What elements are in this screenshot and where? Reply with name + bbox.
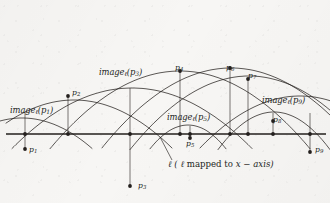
label-point-p3: p3 <box>138 182 146 190</box>
axis-caption: ℓ ( ℓ mapped to x − axis) <box>168 160 274 169</box>
axis-caption-leader <box>160 137 172 160</box>
axis-dot-p9-foot <box>308 132 312 136</box>
point-dot-p9 <box>308 150 312 154</box>
label-point-p9: p9 <box>315 146 323 154</box>
axis-dot-p7-foot <box>246 132 250 136</box>
label-image-l-p9: imageℓ(p9) <box>262 96 305 105</box>
axis-dot-p5-foot <box>188 132 192 136</box>
label-point-p8: p8 <box>273 116 281 124</box>
axis-dot-p3-foot <box>128 132 132 136</box>
label-image-l-p1: imageℓ(p1) <box>10 106 53 115</box>
label-image-l-p3: imageℓ(p3) <box>99 68 142 77</box>
parabola-image_l(p1) <box>0 118 92 148</box>
point-dot-p2 <box>66 94 70 98</box>
figure-canvas: imageℓ(p1) imageℓ(p3) imageℓ(p5) imageℓ(… <box>0 0 330 203</box>
label-point-p6: p6 <box>226 64 234 72</box>
axis-caption-leader-line <box>160 137 172 160</box>
point-dot-p1 <box>23 147 27 151</box>
axis-dot-p1-foot <box>23 132 27 136</box>
label-point-p4: p4 <box>175 64 183 72</box>
parabola-image_l(p3) <box>12 88 252 149</box>
point-dots-group <box>23 66 312 188</box>
axis-dot-p6-foot <box>228 132 232 136</box>
axis-dot-p8-foot <box>271 132 275 136</box>
label-point-p2: p2 <box>72 89 80 97</box>
axis-dot-p4-foot <box>178 132 182 136</box>
label-point-p5: p5 <box>186 140 194 148</box>
axis-dot-p2-foot <box>66 132 70 136</box>
label-point-p1: p1 <box>29 146 37 154</box>
label-point-p7: p7 <box>248 72 256 80</box>
point-dot-p3 <box>128 184 132 188</box>
label-image-l-p5: imageℓ(p5) <box>167 113 210 122</box>
